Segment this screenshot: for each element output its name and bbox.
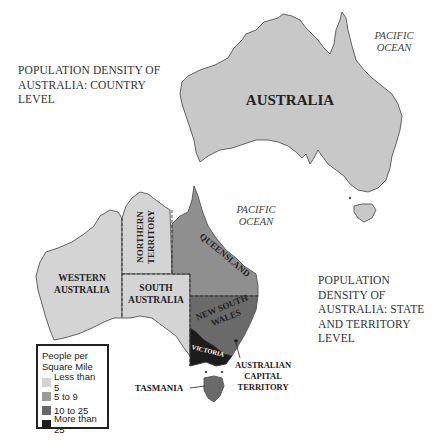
label-line: TASMANIA	[128, 383, 190, 393]
label-line: TERRITORY	[146, 207, 157, 267]
label-line: CAPITAL	[228, 371, 298, 382]
label-line: WESTERN	[44, 272, 120, 284]
ocean-label-line: PACIFIC	[226, 204, 286, 216]
country-label-australia: AUSTRALIA	[240, 92, 340, 109]
state-level-title: POPULATION DENSITY OF AUSTRALIA: STATE A…	[318, 273, 438, 346]
legend-swatch	[42, 392, 51, 401]
tasmania-leader-line	[190, 386, 205, 388]
pacific-ocean-label-bottom: PACIFIC OCEAN	[226, 204, 286, 228]
title-line: DENSITY OF	[318, 288, 438, 303]
title-line: LEVEL	[318, 331, 438, 346]
label-western-australia: WESTERN AUSTRALIA	[44, 272, 120, 296]
title-line: AUSTRALIA: STATE	[318, 302, 438, 317]
island-dot	[205, 371, 208, 374]
ocean-label-line: OCEAN	[226, 216, 286, 228]
legend-label: More than 25	[54, 413, 103, 435]
label-south-australia: SOUTH AUSTRALIA	[122, 282, 190, 306]
tasmania-shape	[204, 376, 224, 402]
legend-swatch	[42, 378, 51, 387]
legend-item: More than 25	[42, 417, 103, 431]
label-northern-territory: NORTHERN TERRITORY	[135, 207, 157, 267]
label-tasmania: TASMANIA	[128, 383, 190, 393]
legend-swatch	[42, 420, 51, 429]
island-dot	[349, 197, 351, 199]
legend-swatch	[42, 406, 51, 415]
title-line: AND TERRITORY	[318, 317, 438, 332]
title-line: POPULATION	[318, 273, 438, 288]
tasmania-shape-top	[354, 204, 376, 222]
label-line: AUSTRALIAN	[228, 360, 298, 371]
label-line: AUSTRALIA	[44, 284, 120, 296]
island-dot	[221, 371, 224, 374]
legend-title: People per Square Mile	[42, 350, 103, 372]
label-line: TERRITORY	[228, 382, 298, 393]
label-australian-capital-territory: AUSTRALIAN CAPITAL TERRITORY	[228, 360, 298, 393]
legend-item: Less than 5	[42, 375, 103, 389]
legend-title-line: People per	[42, 350, 103, 361]
legend: People per Square Mile Less than 5 5 to …	[36, 344, 109, 429]
act-shape	[234, 339, 238, 343]
label-line: NORTHERN	[135, 207, 146, 267]
label-line: SOUTH	[122, 282, 190, 294]
label-line: AUSTRALIA	[122, 294, 190, 306]
legend-label: 5 to 9	[54, 391, 78, 402]
